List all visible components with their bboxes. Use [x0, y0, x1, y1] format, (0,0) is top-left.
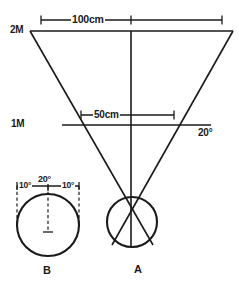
label-width-50cm: 50cm [93, 110, 120, 120]
label-source-b: B [43, 265, 51, 276]
label-half-angle-right: 10° [61, 181, 75, 190]
label-distance-1m: 1M [11, 119, 25, 129]
inset-b-dashed-group [17, 186, 79, 232]
beam-ray-left [30, 31, 153, 245]
diagram-canvas [0, 0, 239, 284]
dimension-100cm-group [41, 16, 222, 25]
beam-angle-diagram: 2M 1M 100cm 50cm 20° A B 10° 20° 10° [0, 0, 239, 284]
beam-ray-right [112, 31, 233, 245]
label-source-a: A [134, 264, 142, 275]
inset-circle-b [17, 194, 79, 256]
label-beam-angle-20deg: 20° [198, 128, 213, 138]
label-total-angle-center: 20° [37, 175, 52, 184]
label-width-100cm: 100cm [71, 14, 105, 25]
label-half-angle-left: 10° [18, 181, 32, 190]
label-distance-2m: 2M [10, 25, 24, 35]
source-circle-a [107, 197, 157, 247]
